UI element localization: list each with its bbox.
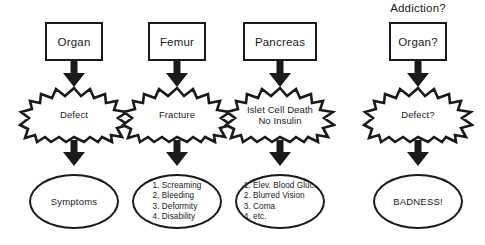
node-burst-islet-cell-death: Islet Cell Death No Insulin	[224, 86, 336, 144]
arrow-down-icon	[59, 140, 89, 167]
burst-line-1: Fracture	[159, 109, 195, 121]
list-item: 2. Bleeding	[153, 191, 202, 201]
list-item: 3. Coma	[244, 202, 316, 212]
burst-line-2: No Insulin	[258, 115, 301, 127]
list-item: 3. Deformity	[153, 202, 202, 212]
flow-column-addiction: Addiction? Organ? Defect? BADNESS!	[353, 0, 483, 245]
node-box-label: Femur	[160, 36, 194, 48]
list-item: 1. Elev. Blood Gluc.	[244, 181, 316, 191]
node-box-femur: Femur	[148, 22, 206, 61]
arrow-down-icon	[59, 61, 89, 88]
arrow-down-icon	[265, 140, 295, 167]
column-title-addiction: Addiction?	[353, 2, 483, 14]
node-oval-symptoms: Symptoms	[29, 174, 119, 229]
arrow-down-icon	[403, 140, 433, 167]
burst-line-1: Defect	[60, 109, 88, 121]
node-oval-list: 1. Elev. Blood Gluc.2. Blurred Vision3. …	[244, 181, 316, 222]
node-box-organ: Organ	[45, 22, 103, 61]
node-oval-label: BADNESS!	[393, 196, 443, 207]
arrow-down-icon	[265, 61, 295, 88]
node-burst-text: Defect?	[362, 86, 474, 144]
node-box-label: Organ	[58, 36, 91, 48]
list-item: 4. etc.	[244, 212, 316, 222]
node-oval-list: 1. Screaming2. Bleeding3. Deformity4. Di…	[153, 181, 202, 222]
flow-column-pancreas: Pancreas Islet Cell Death No Insulin 1. …	[215, 0, 345, 245]
burst-line-1: Defect?	[401, 109, 434, 121]
burst-line-1: Islet Cell Death	[247, 104, 313, 116]
arrow-down-icon	[162, 61, 192, 88]
node-box-organ-question: Organ?	[389, 22, 447, 61]
node-burst-text: Islet Cell Death No Insulin	[224, 86, 336, 144]
list-item: 2. Blurred Vision	[244, 191, 316, 201]
list-item: 4. Disability	[153, 212, 202, 222]
node-burst-defect-question: Defect?	[362, 86, 474, 144]
flowchart-diagram: Organ Defect Symptoms	[0, 0, 485, 245]
list-item: 1. Screaming	[153, 181, 202, 191]
node-box-pancreas: Pancreas	[243, 22, 317, 61]
node-oval-label: Symptoms	[51, 196, 97, 207]
node-oval-badness: BADNESS!	[373, 174, 463, 229]
node-box-label: Pancreas	[255, 36, 305, 48]
arrow-down-icon	[162, 140, 192, 167]
node-oval-pancreas-symptoms: 1. Elev. Blood Gluc.2. Blurred Vision3. …	[235, 174, 325, 229]
node-box-label: Organ?	[398, 36, 438, 48]
arrow-down-icon	[403, 61, 433, 88]
node-oval-femur-symptoms: 1. Screaming2. Bleeding3. Deformity4. Di…	[132, 174, 222, 229]
